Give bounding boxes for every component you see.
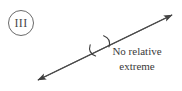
figure-container: III No relative extreme — [0, 0, 182, 91]
figure-canvas: III No relative extreme — [0, 0, 182, 91]
annotation-line-1: No relative — [112, 45, 161, 57]
annotation-text-group: No relative extreme — [112, 45, 161, 72]
badge-label: III — [14, 16, 27, 30]
figure-badge: III — [9, 11, 34, 36]
annotation-line-2: extreme — [119, 60, 155, 72]
